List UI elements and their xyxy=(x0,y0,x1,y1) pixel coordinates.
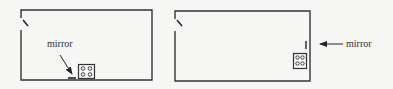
door-icon xyxy=(177,20,182,26)
arrow-icon xyxy=(60,55,72,74)
floor-plan-diagram: mirror mirror xyxy=(0,0,393,89)
door-icon xyxy=(23,20,28,26)
stove-icon xyxy=(294,54,307,69)
left-room: mirror xyxy=(21,10,152,80)
mirror-label-left: mirror xyxy=(47,38,73,49)
right-room: mirror xyxy=(175,11,372,81)
mirror-label-right: mirror xyxy=(346,38,372,49)
stove-icon xyxy=(79,65,95,79)
